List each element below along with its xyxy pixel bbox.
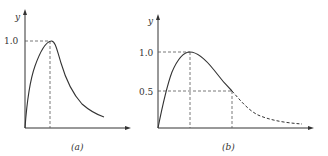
curve-b-dashed (232, 91, 302, 124)
x-arrow-a (125, 126, 131, 130)
y-label-b: y (147, 16, 154, 26)
caption-a: (a) (71, 142, 84, 152)
curve-a (25, 41, 104, 128)
y-arrow-b (156, 14, 160, 20)
y-arrow-a (23, 9, 27, 15)
tick-0.5-b: 0.5 (139, 87, 154, 97)
panel-a: y 1.0 (a) (4, 9, 131, 152)
caption-b: (b) (222, 142, 235, 152)
y-label-a: y (14, 12, 21, 22)
x-arrow-b (308, 126, 314, 130)
tick-1.0-a: 1.0 (4, 36, 19, 46)
figure: y 1.0 (a) y 1.0 0.5 (b) (0, 0, 328, 156)
curve-b-solid (158, 52, 232, 128)
tick-1.0-b: 1.0 (139, 48, 154, 58)
panel-b: y 1.0 0.5 (b) (139, 14, 314, 152)
